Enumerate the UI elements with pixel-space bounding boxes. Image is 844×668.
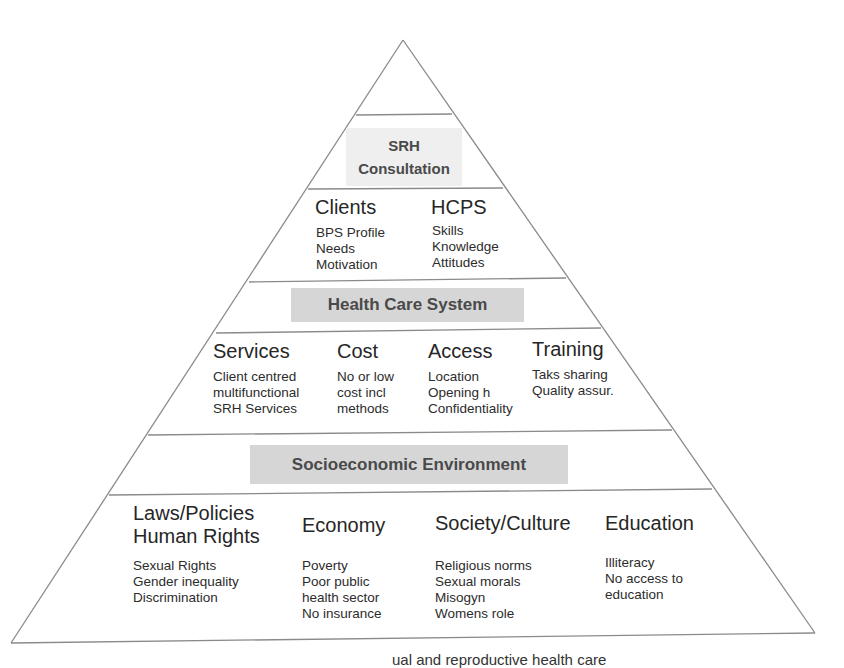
health-care-system-label: Health Care System (291, 288, 524, 322)
category-access-title: Access (428, 340, 492, 362)
figure-caption: ual and reproductive health care (392, 651, 606, 668)
list-item: Skills (432, 223, 499, 239)
list-item: Motivation (316, 257, 385, 273)
list-item: Client centred (213, 369, 299, 385)
list-item: No insurance (302, 606, 382, 622)
category-society-culture-title: Society/Culture (435, 512, 571, 534)
list-item: multifunctional (213, 385, 299, 401)
category-laws-policies-title: Laws/Policies Human Rights (133, 502, 260, 548)
divider-actors (249, 278, 566, 282)
list-item: Knowledge (432, 239, 499, 255)
list-item: Religious norms (435, 558, 532, 574)
category-laws-policies-items: Sexual Rights Gender inequality Discrimi… (133, 558, 239, 606)
list-item: Taks sharing (532, 367, 614, 383)
divider-healthcare-label (216, 328, 601, 333)
list-item: No access to (605, 571, 683, 587)
list-item: methods (337, 401, 394, 417)
category-education-title: Education (605, 512, 694, 534)
pyramid-base (11, 633, 815, 643)
list-item: Sexual Rights (133, 558, 239, 574)
divider-socioeconomic-label (109, 489, 712, 495)
socioeconomic-environment-label: Socioeconomic Environment (250, 445, 568, 484)
list-item: Confidentiality (428, 401, 513, 417)
pyramid-right-edge (403, 40, 815, 633)
list-item: Opening h (428, 385, 513, 401)
category-services-items: Client centred multifunctional SRH Servi… (213, 369, 299, 417)
category-training-title: Training (532, 338, 604, 360)
divider-apex (356, 114, 452, 115)
category-education-items: Illiteracy No access to education (605, 555, 683, 603)
list-item: SRH Services (213, 401, 299, 417)
list-item: Illiteracy (605, 555, 683, 571)
srh-consultation-label-line-1: SRH (388, 134, 420, 157)
category-economy-items: Poverty Poor public health sector No ins… (302, 558, 382, 622)
list-item: Gender inequality (133, 574, 239, 590)
category-clients-items: BPS Profile Needs Motivation (316, 225, 385, 273)
category-laws-policies-title-line-1: Laws/Policies (133, 502, 260, 525)
list-item: cost incl (337, 385, 394, 401)
list-item: Misogyn (435, 590, 532, 606)
divider-consultation (308, 188, 503, 189)
list-item: health sector (302, 590, 382, 606)
category-hcps-title: HCPS (431, 196, 487, 218)
list-item: Poverty (302, 558, 382, 574)
divider-healthcare-content (148, 430, 672, 435)
category-cost-title: Cost (337, 340, 378, 362)
category-cost-items: No or low cost incl methods (337, 369, 394, 417)
category-services-title: Services (213, 340, 290, 362)
category-economy-title: Economy (302, 514, 385, 536)
category-training-items: Taks sharing Quality assur. (532, 367, 614, 399)
list-item: No or low (337, 369, 394, 385)
list-item: Attitudes (432, 255, 499, 271)
list-item: Needs (316, 241, 385, 257)
list-item: Quality assur. (532, 383, 614, 399)
list-item: Discrimination (133, 590, 239, 606)
category-hcps-items: Skills Knowledge Attitudes (432, 223, 499, 271)
srh-consultation-label-line-2: Consultation (358, 157, 450, 180)
category-society-culture-items: Religious norms Sexual morals Misogyn Wo… (435, 558, 532, 622)
category-clients-title: Clients (315, 196, 376, 218)
list-item: Location (428, 369, 513, 385)
list-item: BPS Profile (316, 225, 385, 241)
list-item: education (605, 587, 683, 603)
category-access-items: Location Opening h Confidentiality (428, 369, 513, 417)
category-laws-policies-title-line-2: Human Rights (133, 525, 260, 548)
list-item: Poor public (302, 574, 382, 590)
list-item: Womens role (435, 606, 532, 622)
srh-consultation-label: SRH Consultation (346, 128, 462, 186)
list-item: Sexual morals (435, 574, 532, 590)
